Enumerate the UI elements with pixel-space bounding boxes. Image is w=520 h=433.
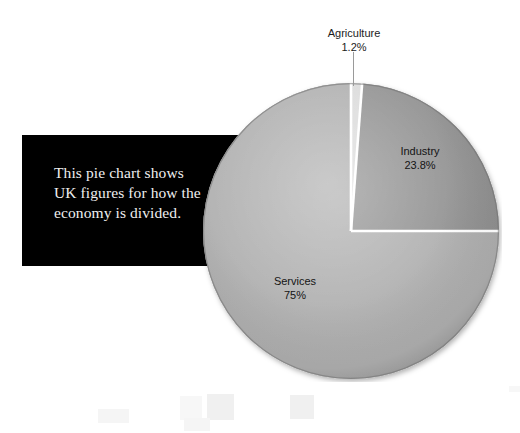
pie-svg bbox=[200, 80, 502, 382]
decorative-square-2 bbox=[180, 396, 202, 420]
decorative-square-1 bbox=[98, 409, 129, 423]
agriculture-leader-line bbox=[353, 52, 354, 86]
slice-label-services: Services 75% bbox=[243, 274, 347, 302]
slice-label-industry-name: Industry bbox=[400, 145, 439, 157]
slice-label-industry-value: 23.8% bbox=[368, 158, 472, 172]
slice-label-agriculture-value: 1.2% bbox=[292, 40, 416, 54]
slice-label-services-name: Services bbox=[274, 275, 316, 287]
pie-chart bbox=[200, 80, 502, 382]
slice-label-agriculture: Agriculture 1.2% bbox=[292, 26, 416, 54]
decorative-square-6 bbox=[509, 386, 520, 392]
slice-label-agriculture-name: Agriculture bbox=[328, 27, 381, 39]
chart-canvas: This pie chart shows UK figures for how … bbox=[0, 0, 520, 433]
decorative-square-4 bbox=[184, 418, 210, 431]
pie-rim-shading bbox=[203, 83, 499, 379]
slice-label-services-value: 75% bbox=[243, 288, 347, 302]
decorative-square-3 bbox=[207, 394, 234, 420]
decorative-square-5 bbox=[290, 395, 314, 419]
slice-label-industry: Industry 23.8% bbox=[368, 144, 472, 172]
